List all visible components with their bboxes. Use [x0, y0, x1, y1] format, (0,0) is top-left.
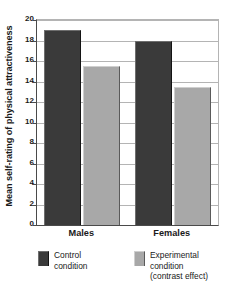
light-swatch-icon	[134, 251, 145, 266]
y-axis-tick-label: 2	[16, 200, 34, 208]
legend-item-control: Control condition	[38, 250, 88, 271]
bar	[44, 30, 81, 225]
legend-control-line2: condition	[54, 261, 88, 272]
legend-item-experimental-label: Experimental condition (contrast effect)	[150, 250, 208, 282]
y-axis-tick-label: 0	[16, 220, 34, 228]
x-axis-category-label: Males	[68, 228, 94, 238]
legend-control-line1: Control	[54, 250, 88, 261]
x-axis-category-labels: MalesFemales	[36, 228, 219, 244]
y-axis-title-text: Mean self-rating of physical attractiven…	[4, 25, 14, 206]
legend-experimental-line2: condition	[150, 261, 208, 272]
legend-item-experimental: Experimental condition (contrast effect)	[134, 250, 208, 282]
dark-swatch-icon	[38, 251, 49, 266]
plot-area	[36, 19, 219, 226]
x-axis-category-label: Females	[153, 228, 190, 238]
legend-experimental-line3: (contrast effect)	[150, 271, 208, 282]
y-axis-tick-label: 12	[16, 97, 34, 105]
y-axis-tick-label: 18	[16, 36, 34, 44]
bar-chart-figure: Mean self-rating of physical attractiven…	[0, 0, 226, 301]
y-axis-tick-label: 6	[16, 159, 34, 167]
y-axis-tick-label: 14	[16, 77, 34, 85]
y-axis-tick-label: 10	[16, 118, 34, 126]
y-axis-tick-label: 4	[16, 179, 34, 187]
bar	[174, 87, 211, 225]
legend-item-control-label: Control condition	[54, 250, 88, 271]
y-axis-tick-labels: 02468101214161820	[16, 14, 34, 226]
legend-experimental-line1: Experimental	[150, 250, 208, 261]
y-axis-tick-label: 8	[16, 138, 34, 146]
y-axis-tick-label: 16	[16, 56, 34, 64]
chart-legend: Control condition Experimental condition…	[38, 250, 224, 298]
bar-group-container	[37, 20, 218, 225]
y-axis-tick-label: 20	[16, 15, 34, 23]
y-axis-tickmark	[33, 225, 37, 226]
bar	[83, 66, 120, 225]
bar	[135, 41, 172, 226]
